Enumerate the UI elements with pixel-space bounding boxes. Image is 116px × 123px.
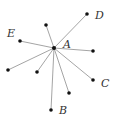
label-c: C	[101, 77, 110, 90]
edge-line	[20, 41, 54, 48]
points	[6, 12, 95, 112]
point	[67, 91, 71, 95]
edge-line	[54, 48, 93, 51]
edge-line	[54, 48, 93, 80]
point	[44, 23, 48, 27]
edge-line	[46, 25, 54, 48]
point	[6, 68, 10, 72]
point	[91, 49, 95, 53]
point-a	[52, 46, 56, 50]
star-diagram: DECBA	[0, 0, 116, 123]
label-d: D	[94, 9, 104, 22]
connecting-lines	[8, 14, 93, 110]
label-e: E	[6, 27, 15, 40]
point-e	[18, 39, 22, 43]
point	[35, 70, 39, 74]
point-b	[49, 108, 53, 112]
label-b: B	[58, 104, 67, 117]
edge-line	[8, 48, 54, 70]
point-d	[85, 12, 89, 16]
edge-line	[51, 48, 54, 110]
label-a: A	[62, 38, 71, 51]
edge-line	[54, 48, 69, 93]
point-c	[91, 78, 95, 82]
